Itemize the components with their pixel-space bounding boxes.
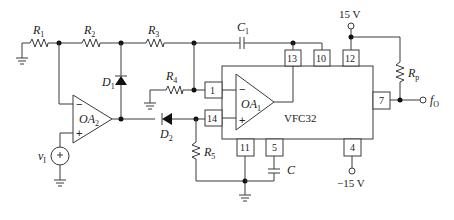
output-label: fO (430, 93, 439, 109)
diode-d2 (162, 113, 205, 125)
capacitor-c (245, 156, 280, 181)
diode-d1 (115, 43, 127, 119)
pin-13: 13 (285, 43, 301, 66)
pin-14: 14 (205, 110, 222, 126)
pin-7: 7 (373, 92, 390, 109)
source-label: vI (38, 149, 46, 165)
pin-11: 11 (237, 139, 254, 156)
resistor-rp (396, 62, 404, 100)
pin-12: 12 (343, 50, 359, 66)
circuit-diagram: R1 R2 R3 C1 D1 − + OA2 vI D2 (0, 0, 454, 220)
opamp-oa2 (59, 43, 155, 147)
node (398, 98, 403, 103)
oa1-minus: − (239, 83, 245, 95)
pin-10: 10 (314, 50, 330, 66)
rp-label: Rp (407, 66, 419, 82)
oa2-plus: + (76, 127, 82, 139)
ground-icon (16, 58, 28, 64)
svg-text:14: 14 (207, 113, 217, 124)
positive-supply-label: 15 V (339, 8, 361, 20)
pin-4: 4 (344, 139, 361, 156)
output-wire (390, 97, 426, 103)
c1-label: C1 (237, 20, 249, 36)
ic-label: VFC32 (284, 112, 316, 124)
svg-text:1: 1 (210, 85, 215, 96)
oa1-plus: + (239, 114, 245, 126)
svg-text:7: 7 (379, 95, 384, 106)
r3-label: R3 (147, 23, 159, 39)
node (119, 117, 124, 122)
svg-text:10: 10 (316, 53, 326, 64)
node (349, 35, 354, 40)
r1-label: R1 (32, 23, 44, 39)
negative-supply (349, 156, 355, 174)
svg-text:4: 4 (350, 142, 355, 153)
r4-label: R4 (165, 69, 177, 85)
oa2-minus: − (76, 98, 82, 110)
d1-label: D1 (101, 75, 115, 91)
top-wire (22, 37, 322, 58)
svg-text:13: 13 (287, 53, 297, 64)
node (192, 88, 197, 93)
svg-text:12: 12 (345, 53, 355, 64)
svg-text:5: 5 (272, 142, 277, 153)
voltage-source (51, 147, 69, 186)
c-label: C (287, 163, 296, 177)
r2-label: R2 (83, 23, 95, 39)
pin-5: 5 (266, 139, 283, 156)
negative-supply-label: −15 V (337, 177, 365, 189)
svg-text:11: 11 (240, 142, 250, 153)
d2-label: D2 (159, 127, 173, 143)
pin-1: 1 (205, 82, 222, 98)
r5-label: R5 (203, 145, 215, 161)
oa2-label: OA2 (79, 112, 99, 128)
